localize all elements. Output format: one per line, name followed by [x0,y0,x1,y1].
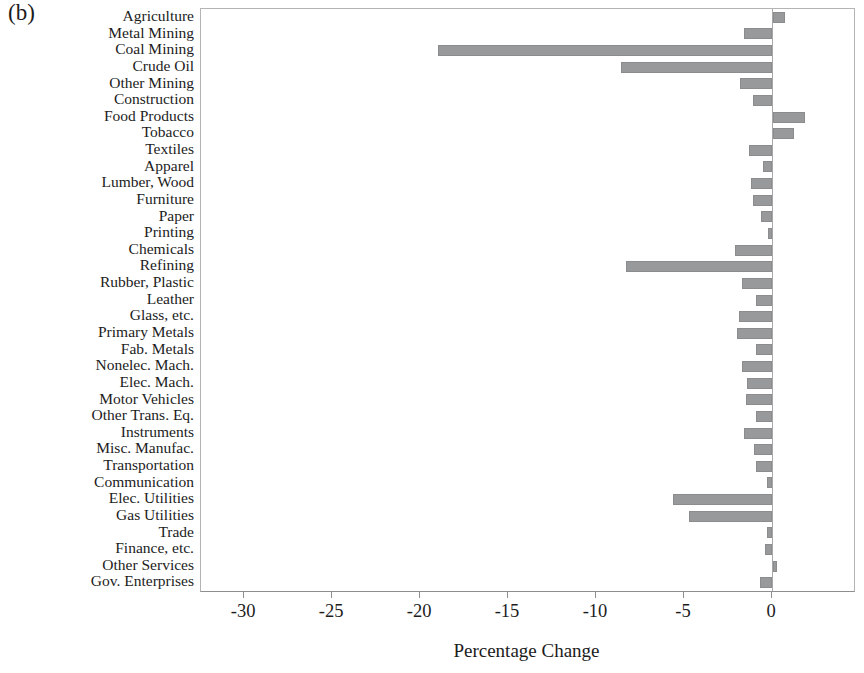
category-label: Agriculture [0,8,194,24]
bar [753,195,772,206]
category-label: Gov. Enterprises [0,573,194,589]
bar [760,577,772,588]
bar [756,461,772,472]
category-label: Rubber, Plastic [0,274,194,290]
bar [754,444,772,455]
category-label: Lumber, Wood [0,174,194,190]
category-label: Communication [0,474,194,490]
x-tick [595,591,596,598]
bar [761,211,772,222]
figure: (b) AgricultureMetal MiningCoal MiningCr… [0,0,864,673]
x-tick [331,591,332,598]
bar [773,128,794,139]
x-tick-label: -5 [653,601,713,622]
category-label: Apparel [0,158,194,174]
bar [746,394,772,405]
bar [744,28,772,39]
category-label: Primary Metals [0,324,194,340]
bar [767,527,772,538]
bar [742,278,772,289]
category-label: Transportation [0,457,194,473]
category-label: Other Services [0,557,194,573]
zero-line [772,9,773,591]
bar [740,78,772,89]
category-label: Crude Oil [0,58,194,74]
x-tick [683,591,684,598]
category-label: Finance, etc. [0,540,194,556]
category-label: Tobacco [0,124,194,140]
category-label: Furniture [0,191,194,207]
category-label: Printing [0,224,194,240]
x-tick-label: -20 [389,601,449,622]
category-label: Chemicals [0,241,194,257]
bar [765,544,772,555]
category-label: Motor Vehicles [0,391,194,407]
x-tick [771,591,772,598]
category-label: Metal Mining [0,25,194,41]
bar [767,477,772,488]
bar [753,95,772,106]
x-tick-label: -25 [301,601,361,622]
bar [742,361,772,372]
category-label: Refining [0,257,194,273]
bar [773,112,805,123]
bar [744,428,772,439]
x-tick-label: -10 [565,601,625,622]
category-label: Coal Mining [0,41,194,57]
category-label: Leather [0,291,194,307]
bar [756,344,772,355]
bar [737,328,772,339]
plot-area [200,8,855,592]
x-tick-label: -30 [213,601,273,622]
category-label: Glass, etc. [0,307,194,323]
category-label: Elec. Utilities [0,490,194,506]
x-tick [243,591,244,598]
bar [739,311,772,322]
category-label: Other Trans. Eq. [0,407,194,423]
bar [773,12,785,23]
bar [749,145,772,156]
bar [689,511,772,522]
x-tick [419,591,420,598]
bar [747,378,772,389]
bar [673,494,772,505]
bar [438,45,772,56]
category-label: Instruments [0,424,194,440]
category-label: Elec. Mach. [0,374,194,390]
bar [768,228,772,239]
category-axis: AgricultureMetal MiningCoal MiningCrude … [0,8,194,590]
category-label: Trade [0,524,194,540]
bar [773,561,777,572]
category-label: Other Mining [0,75,194,91]
category-label: Nonelec. Mach. [0,357,194,373]
category-label: Fab. Metals [0,341,194,357]
bar [626,261,772,272]
x-tick-label: -15 [477,601,537,622]
bar [756,411,772,422]
category-label: Gas Utilities [0,507,194,523]
category-label: Construction [0,91,194,107]
category-label: Textiles [0,141,194,157]
category-label: Paper [0,208,194,224]
x-axis-label: Percentage Change [200,640,853,662]
bar [763,161,772,172]
bar [751,178,772,189]
category-label: Misc. Manufac. [0,440,194,456]
bar [756,295,772,306]
bar [735,245,772,256]
category-label: Food Products [0,108,194,124]
bar [621,62,772,73]
x-tick-label: 0 [741,601,801,622]
x-tick [507,591,508,598]
